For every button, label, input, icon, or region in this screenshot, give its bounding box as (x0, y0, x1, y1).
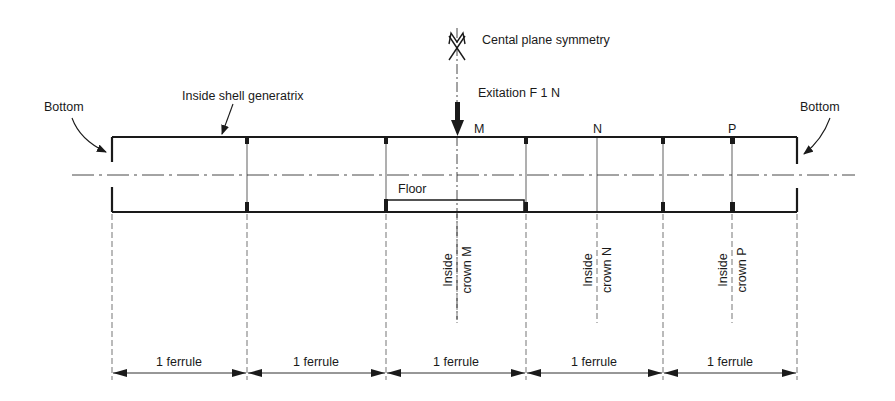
crown-n-label: Inside crown N (581, 247, 614, 293)
dimension-label: 1 ferrule (571, 355, 617, 369)
dimension-label: 1 ferrule (433, 355, 479, 369)
floor: Floor (386, 182, 524, 212)
point-n-label: N (593, 122, 602, 136)
generatrix-label: Inside shell generatrix (182, 89, 304, 103)
svg-text:Inside: Inside (716, 253, 730, 286)
generatrix-arrow-icon (222, 104, 233, 134)
crown-m-label: Inside crown M (441, 246, 474, 293)
svg-text:Inside: Inside (581, 253, 595, 286)
point-m-label: M (474, 122, 484, 136)
excitation-label: Exitation F 1 N (478, 86, 560, 100)
crown-p-label: Inside crown P (716, 247, 749, 292)
floor-label: Floor (398, 182, 426, 196)
dimension-label: 1 ferrule (293, 355, 339, 369)
svg-text:crown N: crown N (600, 247, 614, 293)
svg-text:Inside: Inside (441, 253, 455, 286)
bottom-right-label: Bottom (800, 100, 840, 114)
svg-text:crown M: crown M (460, 246, 474, 293)
excitation-arrow-icon (451, 102, 464, 136)
crown-lines (597, 137, 732, 212)
point-p-label: P (728, 122, 736, 136)
bottom-left-label: Bottom (44, 100, 84, 114)
shell-diagram: Cental plane symmetry Exitation F 1 N M … (0, 0, 895, 401)
dimension-label: 1 ferrule (707, 355, 753, 369)
symmetry-label: Cental plane symmetry (482, 33, 611, 47)
bottom-left-arrow-icon (72, 118, 106, 152)
svg-text:crown P: crown P (735, 247, 749, 292)
dimension-label: 1 ferrule (156, 355, 202, 369)
bottom-right-arrow-icon (804, 118, 830, 154)
